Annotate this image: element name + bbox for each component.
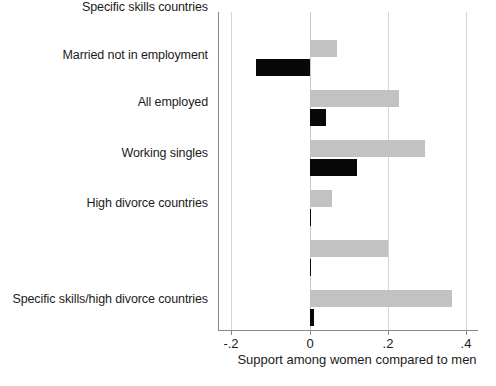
bar-gray-3 (310, 190, 332, 207)
category-axis-labels: Married not in employment All employed W… (0, 0, 213, 330)
gridline--0.2 (231, 12, 232, 330)
plot-area (218, 12, 478, 330)
bar-black-2 (310, 159, 357, 176)
gridline-0.2 (388, 12, 389, 330)
gridline-0.4 (466, 12, 467, 330)
ticklabel--0.2: -.2 (211, 336, 251, 351)
bar-gray-2 (310, 140, 425, 157)
bar-black-0 (256, 59, 310, 76)
tickmark--0.2 (231, 330, 232, 335)
ticklabel-0.4: .4 (446, 336, 486, 351)
bar-gray-0 (310, 40, 337, 57)
bar-chart-figure: Married not in employment All employed W… (0, 0, 496, 386)
category-label-specific-skills-high-divorce-countries: Specific skills/high divorce countries (12, 292, 208, 306)
bar-gray-4 (310, 240, 388, 257)
plot-left-border (218, 12, 219, 330)
x-axis-title: Support among women compared to men (218, 352, 496, 368)
category-label-specific-skills-countries: Specific skills countries (82, 0, 208, 14)
bar-gray-5 (310, 290, 452, 307)
plot-bottom-axis (218, 330, 478, 331)
ticklabel-0.2: .2 (368, 336, 408, 351)
category-label-married-not-in-employment: Married not in employment (63, 48, 208, 62)
bar-gray-1 (310, 90, 399, 107)
tickmark-0.2 (388, 330, 389, 335)
category-label-high-divorce-countries: High divorce countries (87, 196, 208, 210)
category-label-working-singles: Working singles (121, 146, 208, 160)
bar-black-5 (310, 309, 314, 326)
bar-black-3 (310, 209, 311, 226)
tickmark-0.4 (466, 330, 467, 335)
tickmark-0 (310, 330, 311, 335)
bar-black-1 (310, 109, 326, 126)
category-label-all-employed: All employed (138, 95, 208, 109)
bar-black-4 (310, 259, 311, 276)
ticklabel-0: 0 (290, 336, 330, 351)
